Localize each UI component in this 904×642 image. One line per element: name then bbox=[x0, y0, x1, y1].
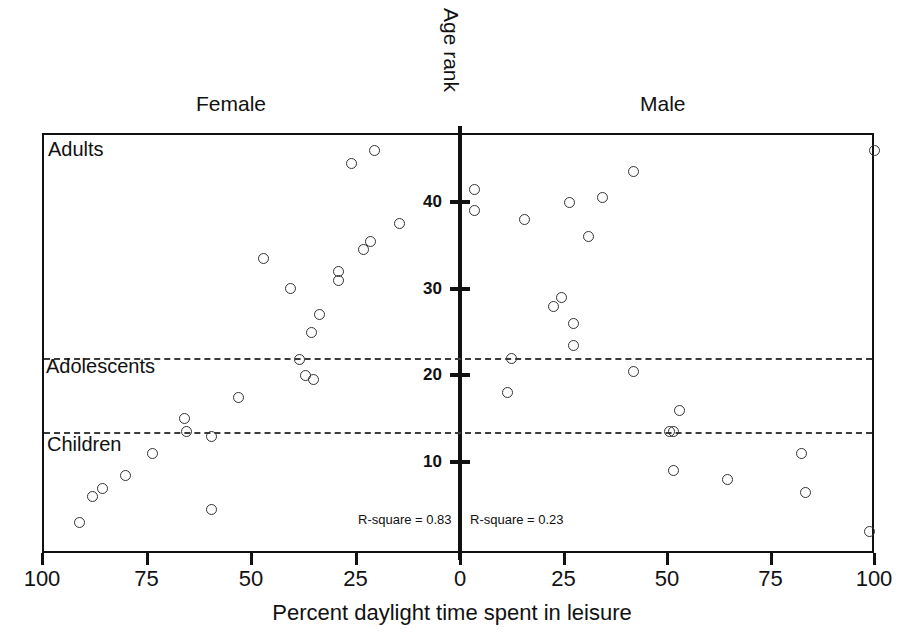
x-tick-label: 0 bbox=[430, 566, 490, 592]
scatter-point bbox=[722, 474, 733, 485]
scatter-point bbox=[206, 504, 217, 515]
y-tick-mark bbox=[450, 200, 470, 204]
y-axis-title: Age rank bbox=[439, 8, 463, 92]
y-tick-mark bbox=[450, 287, 470, 291]
chart-canvas: Female Male Age rank Adults Adolescents … bbox=[0, 0, 904, 642]
scatter-point bbox=[556, 292, 567, 303]
x-tick-label: 75 bbox=[741, 566, 801, 592]
male-panel-title: Male bbox=[640, 92, 686, 116]
group-label-adolescents: Adolescents bbox=[46, 355, 155, 378]
x-tick-mark bbox=[563, 553, 566, 565]
x-tick-label: 75 bbox=[117, 566, 177, 592]
scatter-point bbox=[394, 218, 405, 229]
scatter-point bbox=[668, 465, 679, 476]
x-tick-mark bbox=[873, 553, 876, 565]
scatter-point bbox=[664, 426, 675, 437]
x-tick-label: 100 bbox=[844, 566, 904, 592]
adolescents-reference-line bbox=[44, 358, 872, 360]
y-tick-label: 40 bbox=[406, 192, 442, 212]
scatter-point bbox=[258, 253, 269, 264]
female-panel-title: Female bbox=[196, 92, 266, 116]
x-tick-mark bbox=[355, 553, 358, 565]
scatter-point bbox=[568, 340, 579, 351]
scatter-point bbox=[233, 392, 244, 403]
x-tick-mark bbox=[41, 553, 44, 565]
y-tick-label: 20 bbox=[406, 365, 442, 385]
scatter-point bbox=[564, 197, 575, 208]
scatter-point bbox=[674, 405, 685, 416]
children-reference-line bbox=[44, 432, 872, 434]
scatter-point bbox=[294, 354, 305, 365]
scatter-point bbox=[506, 353, 517, 364]
female-rsquare-annotation: R-square = 0.83 bbox=[358, 512, 452, 527]
y-tick-mark bbox=[450, 460, 470, 464]
scatter-point bbox=[306, 327, 317, 338]
scatter-point bbox=[796, 448, 807, 459]
x-tick-mark bbox=[250, 553, 253, 565]
x-tick-label: 50 bbox=[637, 566, 697, 592]
scatter-point bbox=[548, 301, 559, 312]
scatter-point bbox=[87, 491, 98, 502]
male-rsquare-annotation: R-square = 0.23 bbox=[470, 512, 564, 527]
x-axis-title: Percent daylight time spent in leisure bbox=[0, 600, 904, 626]
y-tick-label: 10 bbox=[406, 452, 442, 472]
scatter-point bbox=[181, 426, 192, 437]
scatter-point bbox=[469, 184, 480, 195]
x-tick-mark bbox=[770, 553, 773, 565]
x-tick-label: 50 bbox=[221, 566, 281, 592]
y-tick-mark bbox=[450, 373, 470, 377]
x-tick-mark bbox=[666, 553, 669, 565]
x-tick-label: 100 bbox=[12, 566, 72, 592]
scatter-point bbox=[628, 366, 639, 377]
scatter-point bbox=[519, 214, 530, 225]
scatter-point bbox=[97, 483, 108, 494]
x-tick-mark bbox=[146, 553, 149, 565]
scatter-point bbox=[120, 470, 131, 481]
scatter-point bbox=[346, 158, 357, 169]
x-tick-label: 25 bbox=[326, 566, 386, 592]
center-age-rank-axis bbox=[458, 126, 462, 560]
scatter-point bbox=[869, 145, 880, 156]
x-tick-mark bbox=[459, 553, 462, 565]
group-label-adults: Adults bbox=[48, 138, 104, 161]
scatter-point bbox=[179, 413, 190, 424]
scatter-point bbox=[800, 487, 811, 498]
scatter-point bbox=[206, 431, 217, 442]
y-tick-label: 30 bbox=[406, 279, 442, 299]
scatter-point bbox=[333, 275, 344, 286]
group-label-children: Children bbox=[47, 433, 121, 456]
scatter-point bbox=[583, 231, 594, 242]
x-tick-label: 25 bbox=[534, 566, 594, 592]
scatter-point bbox=[369, 145, 380, 156]
